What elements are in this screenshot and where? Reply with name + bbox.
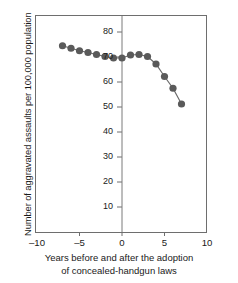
data-point	[67, 45, 74, 52]
data-point	[84, 49, 91, 56]
x-tick-label: –5	[67, 237, 93, 248]
x-axis-title-line1: Years before and after the adoption	[45, 252, 194, 263]
data-point	[178, 100, 185, 107]
data-point	[118, 54, 125, 61]
x-tick-label: –10	[24, 237, 50, 248]
chart-figure: Number of aggravated assaults per 100,00…	[0, 0, 238, 283]
data-point	[76, 47, 83, 54]
x-tick-marks	[80, 232, 165, 236]
data-point	[144, 53, 151, 60]
data-point	[169, 85, 176, 92]
x-axis-title: Years before and after the adoption of c…	[0, 252, 238, 277]
y-tick-label: 20	[95, 176, 113, 186]
x-axis-title-line2: of concealed-handgun laws	[0, 265, 238, 278]
x-tick-label: 10	[194, 237, 220, 248]
y-tick-label: 60	[95, 76, 113, 86]
x-tick-label: 5	[152, 237, 178, 248]
data-point	[135, 51, 142, 58]
y-tick-label: 80	[95, 26, 113, 36]
y-tick-label: 70	[95, 51, 113, 61]
y-tick-label: 10	[95, 201, 113, 211]
y-tick-label: 50	[95, 101, 113, 111]
y-tick-label: 40	[95, 126, 113, 136]
data-point	[152, 60, 159, 67]
y-tick-label: 30	[95, 151, 113, 161]
data-point	[127, 51, 134, 58]
data-point	[161, 73, 168, 80]
data-point	[59, 42, 66, 49]
x-tick-label: 0	[109, 237, 135, 248]
